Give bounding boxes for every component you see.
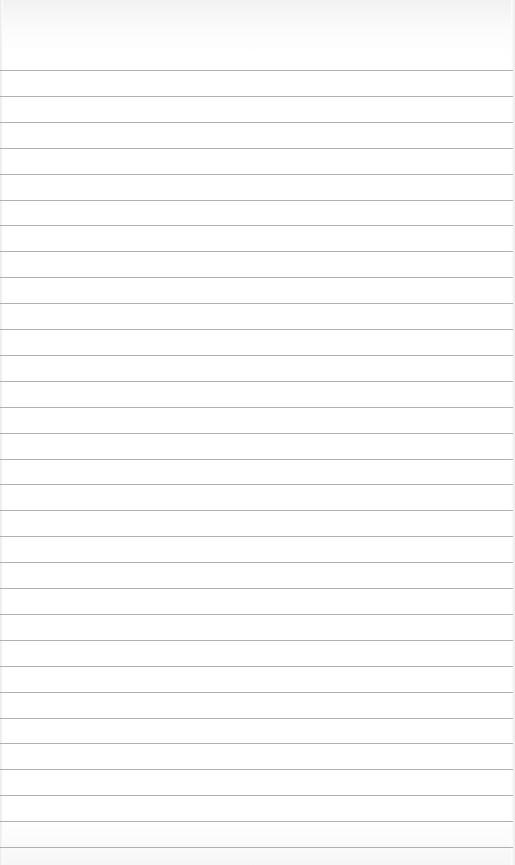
ruled-line — [0, 174, 513, 175]
ruled-line — [0, 510, 513, 511]
ruled-line — [0, 692, 513, 693]
ruled-line — [0, 200, 513, 201]
ruled-line — [0, 122, 513, 123]
ruled-line — [0, 355, 513, 356]
ruled-line — [0, 821, 513, 822]
ruled-line — [0, 381, 513, 382]
ruled-line — [0, 847, 513, 848]
ruled-line — [0, 718, 513, 719]
ruled-line — [0, 562, 513, 563]
ruled-line — [0, 614, 513, 615]
ruled-line — [0, 536, 513, 537]
ruled-line — [0, 795, 513, 796]
ruled-line — [0, 277, 513, 278]
ruled-line — [0, 640, 513, 641]
ruled-line — [0, 70, 513, 71]
ruled-line — [0, 433, 513, 434]
ruled-line — [0, 666, 513, 667]
ruled-line — [0, 303, 513, 304]
ruled-line — [0, 743, 513, 744]
lined-paper-sheet — [0, 0, 515, 865]
ruled-line — [0, 459, 513, 460]
ruled-line — [0, 588, 513, 589]
ruled-line — [0, 96, 513, 97]
ruled-line — [0, 251, 513, 252]
ruled-line — [0, 484, 513, 485]
ruled-line — [0, 148, 513, 149]
ruled-line — [0, 769, 513, 770]
ruled-line — [0, 329, 513, 330]
ruled-line — [0, 225, 513, 226]
ruled-line — [0, 407, 513, 408]
